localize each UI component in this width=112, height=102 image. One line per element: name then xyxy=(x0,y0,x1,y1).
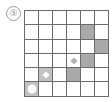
grid-cell-r3-c0 xyxy=(25,54,39,68)
grid-cell-r3-c5 xyxy=(95,54,109,68)
grid-cell-r3-c4 xyxy=(81,54,95,68)
diamond-icon xyxy=(70,57,77,64)
grid-cell-r2-c0 xyxy=(25,40,39,54)
grid-cell-r1-c2 xyxy=(53,25,67,39)
problem-number-label: ⑤ xyxy=(6,6,21,21)
grid-cell-r4-c0 xyxy=(25,68,39,82)
grid-cell-r3-c1 xyxy=(39,54,53,68)
grid-cell-r1-c5 xyxy=(95,25,109,39)
grid-cell-r4-c2 xyxy=(53,68,67,82)
grid-cell-r5-c4 xyxy=(81,82,95,96)
grid-cell-r3-c2 xyxy=(53,54,67,68)
grid-cell-r2-c1 xyxy=(39,40,53,54)
grid-cell-r5-c1 xyxy=(39,82,53,96)
grid-cell-r2-c3 xyxy=(67,40,81,54)
circle-icon xyxy=(27,85,36,94)
grid-cell-r1-c1 xyxy=(39,25,53,39)
grid-cell-r0-c2 xyxy=(53,11,67,25)
grid-cell-r2-c4 xyxy=(81,40,95,54)
grid-cell-r1-c4 xyxy=(81,25,95,39)
grid-cell-r0-c5 xyxy=(95,11,109,25)
grid xyxy=(24,10,109,97)
grid-cell-r1-c0 xyxy=(25,25,39,39)
grid-cell-r0-c4 xyxy=(81,11,95,25)
grid-cell-r1-c3 xyxy=(67,25,81,39)
grid-cell-r4-c5 xyxy=(95,68,109,82)
grid-cell-r5-c3 xyxy=(67,82,81,96)
grid-cell-r4-c4 xyxy=(81,68,95,82)
grid-cell-r2-c2 xyxy=(53,40,67,54)
grid-cell-r4-c1 xyxy=(39,68,53,82)
grid-cell-r0-c3 xyxy=(67,11,81,25)
grid-cell-r5-c5 xyxy=(95,82,109,96)
grid-cell-r5-c0 xyxy=(25,82,39,96)
grid-cell-r4-c3 xyxy=(67,68,81,82)
grid-cell-r0-c1 xyxy=(39,11,53,25)
grid-cell-r2-c5 xyxy=(95,40,109,54)
grid-cell-r3-c3 xyxy=(67,54,81,68)
diamond-icon xyxy=(42,71,49,78)
grid-cell-r5-c2 xyxy=(53,82,67,96)
grid-cell-r0-c0 xyxy=(25,11,39,25)
